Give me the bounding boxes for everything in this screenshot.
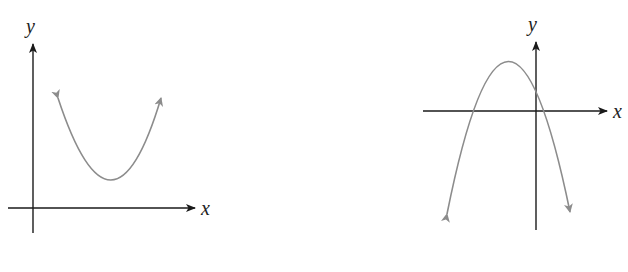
right-y-label: y: [526, 13, 537, 36]
graphs-figure: y x y x: [0, 0, 628, 272]
left-y-label: y: [24, 15, 35, 38]
right-parabola-curve: [447, 61, 570, 214]
right-x-label: x: [612, 100, 622, 122]
left-parabola-curve: [58, 98, 161, 180]
left-graph: y x: [8, 15, 210, 233]
left-x-label: x: [200, 197, 210, 219]
right-graph: y x: [423, 13, 622, 230]
